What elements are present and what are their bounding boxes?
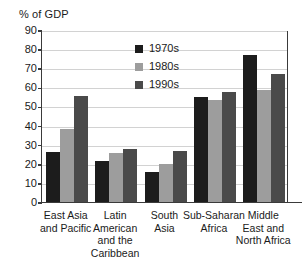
bar xyxy=(145,172,159,202)
bar xyxy=(109,153,123,202)
y-axis-tick-label: 70 xyxy=(3,63,37,74)
y-axis-tick-label: 20 xyxy=(3,159,37,170)
legend-swatch-icon xyxy=(135,81,143,89)
legend-swatch-icon xyxy=(135,45,143,53)
y-axis-tick xyxy=(38,126,42,128)
bar-group xyxy=(46,31,88,202)
legend-item[interactable]: 1970s xyxy=(135,41,207,56)
y-axis-tick-label: 10 xyxy=(3,178,37,189)
y-axis-tick xyxy=(38,88,42,90)
bar xyxy=(159,164,173,202)
y-axis-tick xyxy=(38,145,42,147)
y-axis-tick xyxy=(38,164,42,166)
bar xyxy=(208,100,222,202)
legend-item-label: 1980s xyxy=(149,61,179,72)
bar xyxy=(257,90,271,202)
y-axis-tick-label: 60 xyxy=(3,82,37,93)
y-axis-tick-label: 30 xyxy=(3,140,37,151)
y-axis-tick xyxy=(38,49,42,51)
y-axis-tick-label: 80 xyxy=(3,44,37,55)
bar-group xyxy=(95,31,137,202)
bar xyxy=(222,92,236,202)
bar xyxy=(95,161,109,202)
legend-swatch-icon xyxy=(135,63,143,71)
x-axis-group-label-line: Caribbean xyxy=(76,247,154,260)
bar-chart-figure: % of GDP 0102030405060708090 1970s1980s1… xyxy=(0,0,303,273)
y-axis-tick-label: 50 xyxy=(3,101,37,112)
x-axis-group-label-line: Middle xyxy=(224,209,302,222)
bar xyxy=(194,97,208,202)
legend-item[interactable]: 1980s xyxy=(135,59,207,74)
y-axis-tick xyxy=(38,68,42,70)
bar xyxy=(243,55,257,202)
x-axis-group-label-line: East and xyxy=(224,222,302,235)
legend-item[interactable]: 1990s xyxy=(135,77,207,92)
bar xyxy=(123,149,137,203)
x-axis-baseline-extension xyxy=(288,202,302,204)
y-axis-tick xyxy=(38,202,42,204)
bar xyxy=(173,151,187,202)
y-axis-tick xyxy=(38,107,42,109)
x-axis-group-label: MiddleEast andNorth Africa xyxy=(224,209,302,247)
bar xyxy=(46,152,60,202)
x-axis-group-label-line: and the xyxy=(76,234,154,247)
y-axis-tick-label: 90 xyxy=(3,25,37,36)
bar-group xyxy=(243,31,285,202)
y-axis-tick-label: 0 xyxy=(3,197,37,208)
y-axis-tick xyxy=(38,183,42,185)
y-axis-tick-label: 40 xyxy=(3,121,37,132)
legend-item-label: 1970s xyxy=(149,43,179,54)
x-axis-group-label-line: North Africa xyxy=(224,234,302,247)
bar xyxy=(271,74,285,202)
legend-item-label: 1990s xyxy=(149,79,179,90)
y-axis-tick xyxy=(38,30,42,32)
bar xyxy=(60,129,74,202)
chart-legend: 1970s1980s1990s xyxy=(135,41,207,95)
bar xyxy=(74,96,88,202)
